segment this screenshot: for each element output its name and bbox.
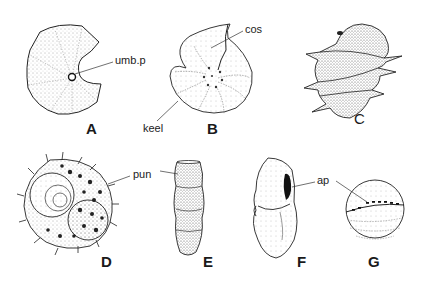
panel-label-g: G: [368, 253, 380, 270]
specimen-e-drawing: [160, 161, 204, 256]
panel-label-c: C: [354, 110, 365, 127]
annotation-costae: cos: [245, 23, 262, 35]
foraminifera-figure: [0, 0, 428, 281]
panel-label-d: D: [101, 253, 112, 270]
specimen-c-drawing: [304, 24, 402, 118]
annotation-punctae: pun: [133, 168, 151, 180]
panel-label-a: A: [86, 120, 97, 137]
panel-label-f: F: [297, 253, 306, 270]
annotation-umbilical-plug: umb.p: [115, 54, 146, 66]
specimen-f-drawing: [253, 158, 297, 258]
specimen-b-drawing: [157, 24, 252, 121]
annotation-aperture: ap: [317, 174, 329, 186]
annotation-keel: keel: [143, 122, 163, 134]
specimen-g-drawing: [292, 180, 404, 239]
panel-label-e: E: [203, 253, 213, 270]
specimen-d-drawing: [17, 152, 130, 255]
specimen-a-drawing: [27, 25, 113, 115]
panel-label-b: B: [207, 120, 218, 137]
